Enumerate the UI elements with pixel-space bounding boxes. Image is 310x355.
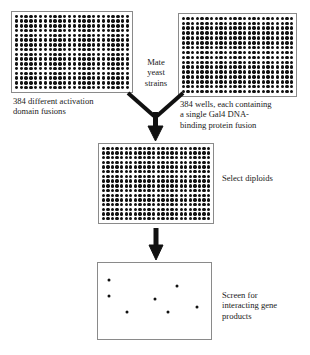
well <box>281 36 284 40</box>
well <box>20 72 23 75</box>
well <box>126 76 129 79</box>
well <box>44 67 47 70</box>
well <box>121 43 124 46</box>
well <box>138 198 141 201</box>
well <box>106 212 109 215</box>
well <box>189 208 192 211</box>
well <box>193 189 196 192</box>
well <box>73 86 76 89</box>
well <box>189 165 192 168</box>
well <box>161 194 164 197</box>
well <box>205 90 208 94</box>
well <box>276 51 279 55</box>
well <box>207 189 210 192</box>
well <box>215 46 218 50</box>
well <box>125 198 128 201</box>
well <box>166 175 169 178</box>
well <box>73 24 76 27</box>
well <box>243 75 246 79</box>
well <box>262 41 265 45</box>
well <box>82 67 85 70</box>
well <box>111 184 114 187</box>
well <box>49 53 52 56</box>
colony-dot <box>153 298 156 301</box>
well <box>58 67 61 70</box>
well <box>78 38 81 41</box>
well <box>186 85 189 89</box>
well <box>207 184 210 187</box>
well <box>262 61 265 65</box>
well <box>215 80 218 84</box>
well <box>238 22 241 26</box>
well <box>68 76 71 79</box>
well <box>121 67 124 70</box>
well <box>102 48 105 51</box>
well <box>106 151 109 154</box>
well <box>111 62 114 65</box>
well <box>238 26 241 30</box>
well <box>157 208 160 211</box>
well <box>276 75 279 79</box>
well <box>186 56 189 60</box>
well <box>200 61 203 65</box>
well <box>147 189 150 192</box>
well <box>229 61 232 65</box>
well <box>97 67 100 70</box>
well <box>182 85 185 89</box>
well <box>106 194 109 197</box>
well <box>202 189 205 192</box>
well <box>107 72 110 75</box>
well <box>182 61 185 65</box>
well <box>248 31 251 35</box>
well <box>58 43 61 46</box>
well <box>106 203 109 206</box>
well <box>121 53 124 56</box>
well <box>238 80 241 84</box>
well <box>53 34 56 37</box>
well <box>170 161 173 164</box>
well <box>262 56 265 60</box>
well <box>15 53 18 56</box>
well <box>29 19 32 22</box>
well <box>126 62 129 65</box>
well <box>252 90 255 94</box>
well <box>121 62 124 65</box>
well <box>266 36 269 40</box>
well <box>116 57 119 60</box>
well <box>106 165 109 168</box>
well <box>266 26 269 30</box>
well <box>102 19 105 22</box>
well <box>20 15 23 18</box>
well <box>248 90 251 94</box>
well <box>196 51 199 55</box>
well <box>34 62 37 65</box>
well <box>285 36 288 40</box>
well <box>111 38 114 41</box>
well <box>102 203 105 206</box>
well <box>138 212 141 215</box>
well <box>63 57 66 60</box>
well <box>143 198 146 201</box>
well <box>191 85 194 89</box>
well <box>106 208 109 211</box>
well <box>24 19 27 22</box>
well <box>182 46 185 50</box>
well <box>49 38 52 41</box>
well <box>233 85 236 89</box>
well <box>53 43 56 46</box>
well <box>116 38 119 41</box>
well <box>276 22 279 26</box>
well <box>120 198 123 201</box>
well <box>15 34 18 37</box>
well <box>285 31 288 35</box>
well <box>200 22 203 26</box>
well <box>34 24 37 27</box>
well <box>285 75 288 79</box>
well <box>219 46 222 50</box>
well <box>271 65 274 69</box>
well <box>196 41 199 45</box>
well <box>182 70 185 74</box>
well <box>39 67 42 70</box>
well <box>138 194 141 197</box>
well <box>285 65 288 69</box>
